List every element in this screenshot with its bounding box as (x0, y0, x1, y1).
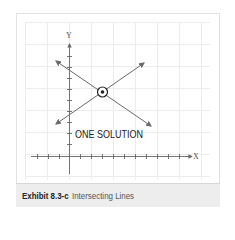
exhibit-title: Intersecting Lines (72, 191, 134, 201)
intersection-point-icon (98, 87, 108, 97)
exhibit-number: Exhibit 8.3-c (22, 191, 69, 201)
y-axis-label: Y (66, 31, 72, 40)
one-solution-annotation: ONE SOLUTION (75, 128, 143, 140)
x-axis-label: X (193, 152, 199, 161)
exhibit-caption: Exhibit 8.3-c Intersecting Lines (16, 183, 220, 207)
